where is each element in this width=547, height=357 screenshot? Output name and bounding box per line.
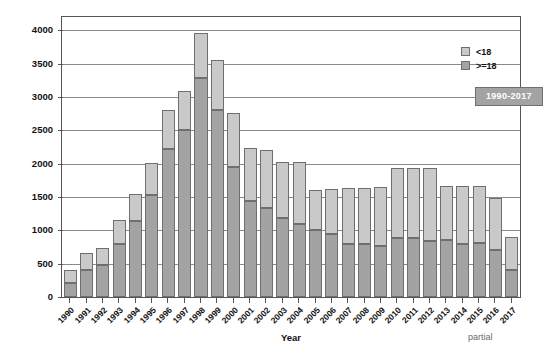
y-tick-mark bbox=[58, 197, 63, 198]
bar-segment-over18-2017 bbox=[505, 270, 518, 297]
bar-segment-over18-2007 bbox=[342, 244, 355, 297]
y-tick-label: 2000 bbox=[19, 157, 53, 168]
bar-segment-over18-1998 bbox=[194, 78, 207, 297]
bar-2004 bbox=[293, 162, 306, 297]
x-tick-mark bbox=[135, 298, 136, 303]
bar-1992 bbox=[96, 248, 109, 297]
bar-segment-under18-1999 bbox=[211, 60, 224, 110]
bar-segment-under18-2001 bbox=[244, 148, 257, 201]
y-tick-mark bbox=[58, 130, 63, 131]
bar-2015 bbox=[473, 186, 486, 297]
bar-segment-under18-2010 bbox=[391, 168, 404, 238]
x-tick-mark bbox=[200, 298, 201, 303]
y-tick-label: 4000 bbox=[19, 24, 53, 35]
x-tick-mark bbox=[462, 298, 463, 303]
bar-segment-over18-2008 bbox=[358, 244, 371, 297]
bar-1999 bbox=[211, 60, 224, 297]
plot-area: <18 >=18 1990-2017 bbox=[61, 16, 521, 298]
bar-segment-over18-1990 bbox=[64, 283, 77, 297]
bar-segment-over18-2009 bbox=[374, 246, 387, 297]
bar-1995 bbox=[145, 163, 158, 297]
bar-segment-under18-2015 bbox=[473, 186, 486, 243]
y-tick-mark bbox=[58, 64, 63, 65]
bar-segment-under18-2016 bbox=[489, 198, 502, 250]
bar-1997 bbox=[178, 91, 191, 297]
bar-1996 bbox=[162, 110, 175, 297]
bar-2003 bbox=[276, 162, 289, 297]
x-tick-mark bbox=[282, 298, 283, 303]
bar-2012 bbox=[423, 168, 436, 297]
x-tick-mark bbox=[216, 298, 217, 303]
legend-item-over18: >=18 bbox=[461, 59, 497, 72]
bar-segment-under18-1992 bbox=[96, 248, 109, 265]
bar-segment-under18-2011 bbox=[407, 168, 420, 238]
y-tick-label: 1000 bbox=[19, 224, 53, 235]
bar-segment-over18-1994 bbox=[129, 221, 142, 297]
x-tick-mark bbox=[69, 298, 70, 303]
gridline bbox=[62, 30, 520, 31]
bar-segment-over18-2012 bbox=[423, 241, 436, 297]
y-tick-label: 3000 bbox=[19, 91, 53, 102]
bar-segment-under18-1994 bbox=[129, 194, 142, 221]
bar-segment-over18-1993 bbox=[113, 244, 126, 297]
bar-segment-over18-2002 bbox=[260, 208, 273, 297]
x-tick-mark bbox=[429, 298, 430, 303]
bar-segment-over18-2006 bbox=[325, 234, 338, 297]
y-tick-label: 0 bbox=[19, 291, 53, 302]
y-tick-mark bbox=[58, 164, 63, 165]
bar-segment-over18-2011 bbox=[407, 238, 420, 297]
bar-segment-under18-2013 bbox=[440, 186, 453, 239]
bar-segment-under18-1991 bbox=[80, 253, 93, 269]
bar-segment-under18-2000 bbox=[227, 113, 240, 167]
bar-segment-over18-2004 bbox=[293, 224, 306, 297]
bar-segment-under18-1996 bbox=[162, 110, 175, 149]
y-tick-label: 1500 bbox=[19, 191, 53, 202]
date-range-badge: 1990-2017 bbox=[475, 87, 543, 106]
bar-segment-over18-2010 bbox=[391, 238, 404, 297]
bar-segment-over18-2016 bbox=[489, 250, 502, 297]
bar-1998 bbox=[194, 33, 207, 297]
legend-item-under18: <18 bbox=[461, 45, 497, 58]
x-tick-mark bbox=[298, 298, 299, 303]
gridline bbox=[62, 97, 520, 98]
bar-segment-under18-1990 bbox=[64, 270, 77, 283]
bar-segment-over18-2005 bbox=[309, 230, 322, 297]
x-tick-mark bbox=[86, 298, 87, 303]
bar-2011 bbox=[407, 168, 420, 297]
y-tick-mark bbox=[58, 230, 63, 231]
bar-2014 bbox=[456, 186, 469, 297]
bar-segment-under18-2014 bbox=[456, 186, 469, 244]
bar-segment-over18-1992 bbox=[96, 265, 109, 297]
bar-2008 bbox=[358, 188, 371, 297]
bar-segment-under18-2003 bbox=[276, 162, 289, 217]
x-tick-mark bbox=[445, 298, 446, 303]
bar-segment-under18-2012 bbox=[423, 168, 436, 241]
bar-segment-over18-1997 bbox=[178, 130, 191, 297]
legend-swatch-over18 bbox=[461, 61, 470, 70]
x-tick-mark bbox=[249, 298, 250, 303]
bar-segment-under18-1993 bbox=[113, 220, 126, 245]
bar-segment-under18-2005 bbox=[309, 190, 322, 230]
bar-1994 bbox=[129, 194, 142, 297]
bar-segment-under18-2008 bbox=[358, 188, 371, 244]
x-tick-mark bbox=[167, 298, 168, 303]
x-axis: 1990199119921993199419951996199719981999… bbox=[61, 298, 521, 299]
x-tick-mark bbox=[102, 298, 103, 303]
x-tick-mark bbox=[331, 298, 332, 303]
bar-segment-under18-1995 bbox=[145, 163, 158, 195]
gridline bbox=[62, 64, 520, 65]
bar-segment-over18-2015 bbox=[473, 243, 486, 297]
bar-segment-over18-2001 bbox=[244, 201, 257, 297]
x-tick-mark bbox=[413, 298, 414, 303]
bar-segment-over18-1991 bbox=[80, 270, 93, 297]
x-tick-mark bbox=[184, 298, 185, 303]
bar-2002 bbox=[260, 150, 273, 297]
bar-segment-under18-2009 bbox=[374, 187, 387, 246]
bar-2001 bbox=[244, 148, 257, 297]
bar-1991 bbox=[80, 253, 93, 297]
bar-2009 bbox=[374, 187, 387, 297]
bar-segment-over18-2003 bbox=[276, 218, 289, 297]
bar-segment-under18-2002 bbox=[260, 150, 273, 208]
bar-segment-under18-2006 bbox=[325, 189, 338, 234]
x-tick-mark bbox=[265, 298, 266, 303]
